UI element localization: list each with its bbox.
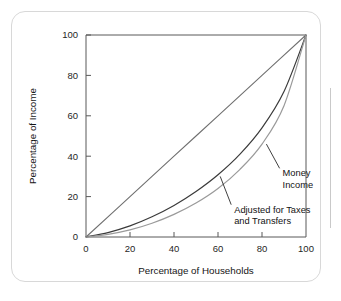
x-tick-label: 20 [125, 243, 136, 254]
y-tick-label: 60 [67, 110, 78, 121]
annotation-label-adjusted-taxes-transfers: Adjusted for Taxesand Transfers [234, 205, 311, 227]
x-tick-label: 100 [298, 243, 314, 254]
y-tick-label: 20 [67, 191, 78, 202]
x-axis-title: Percentage of Households [138, 265, 254, 276]
annotation-leader-money-income [266, 144, 279, 168]
x-tick-label: 40 [169, 243, 180, 254]
annotation-leader-adjusted-taxes-transfers [220, 176, 231, 204]
y-tick-label: 40 [67, 151, 78, 162]
chart-annotations: MoneyIncomeAdjusted for Taxesand Transfe… [220, 144, 313, 226]
chart-canvas: 020406080100020406080100 MoneyIncomeAdju… [0, 0, 341, 301]
x-tick-label: 0 [83, 243, 88, 254]
annotation-label-money-income: MoneyIncome [283, 168, 314, 190]
y-tick-label: 100 [62, 29, 78, 40]
y-tick-label: 80 [67, 70, 78, 81]
y-tick-label: 0 [73, 231, 78, 242]
x-tick-label: 80 [257, 243, 268, 254]
y-axis-title: Percentage of Income [27, 88, 38, 184]
x-tick-label: 60 [213, 243, 224, 254]
lorenz-curve-figure: 020406080100020406080100 MoneyIncomeAdju… [0, 0, 341, 301]
